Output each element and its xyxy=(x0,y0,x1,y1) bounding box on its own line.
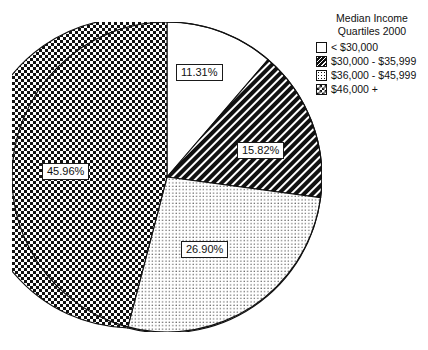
legend-title-line-1: Median Income xyxy=(316,12,428,25)
legend-label-1: $30,000 - $35,999 xyxy=(331,55,416,67)
legend-label-0: < $30,000 xyxy=(331,41,378,53)
legend-item-1[interactable]: $30,000 - $35,999 xyxy=(316,55,428,67)
pie-chart-figure: 11.31% 15.82% 26.90% 45.96% Median Incom… xyxy=(0,0,428,350)
legend-swatch-diagonal-hatch-icon xyxy=(316,56,327,67)
legend-item-0[interactable]: < $30,000 xyxy=(316,41,428,53)
slice-value-label-0: 11.31% xyxy=(176,64,223,81)
legend-swatch-blank-icon xyxy=(316,42,327,53)
legend-swatch-checkerboard-icon xyxy=(316,84,327,95)
legend-swatch-dots-icon xyxy=(316,70,327,81)
legend-title-line-2: Quartiles 2000 xyxy=(316,25,428,38)
legend-label-2: $36,000 - $45,999 xyxy=(331,69,416,81)
slice-value-label-3: 45.96% xyxy=(42,163,89,180)
legend: Median Income Quartiles 2000 < $30,000 $… xyxy=(316,12,428,97)
slice-value-label-1: 15.82% xyxy=(237,142,284,159)
legend-label-3: $46,000 + xyxy=(331,83,378,95)
slice-value-label-2: 26.90% xyxy=(181,241,228,258)
legend-item-2[interactable]: $36,000 - $45,999 xyxy=(316,69,428,81)
legend-item-3[interactable]: $46,000 + xyxy=(316,83,428,95)
